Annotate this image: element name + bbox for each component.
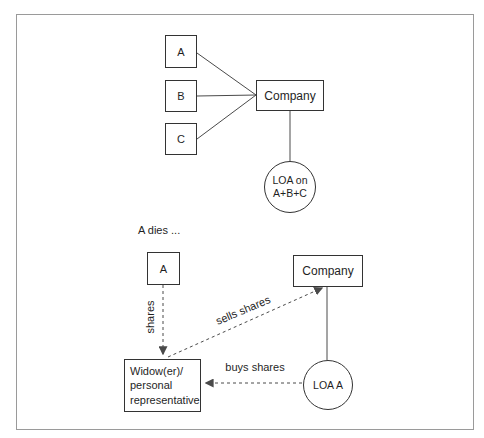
widow-box-line1: Widow(er)/ bbox=[130, 364, 200, 378]
box-shareholder-a-top-label: A bbox=[177, 46, 184, 58]
label-shares: shares bbox=[144, 287, 156, 347]
caption-a-dies: A dies ... bbox=[138, 224, 180, 236]
circle-loa-a: LOA A bbox=[303, 360, 353, 410]
box-company-bottom: Company bbox=[293, 255, 363, 287]
line-c-to-company bbox=[197, 95, 256, 139]
widow-box-line3: representative bbox=[130, 393, 200, 407]
circle-loa-abc: LOA on A+B+C bbox=[264, 161, 316, 213]
widow-box-line2: personal bbox=[130, 378, 200, 392]
box-shareholder-c-label: C bbox=[177, 133, 185, 145]
diagram-canvas: A B C Company LOA on A+B+C A dies ... A … bbox=[0, 0, 484, 438]
box-shareholder-a-top: A bbox=[165, 35, 197, 68]
box-company-bottom-label: Company bbox=[302, 264, 353, 278]
box-shareholder-b-label: B bbox=[177, 90, 184, 102]
box-company-top-label: Company bbox=[264, 89, 315, 103]
line-b-to-company bbox=[197, 95, 256, 96]
box-shareholder-a-bottom: A bbox=[147, 252, 180, 285]
circle-loa-abc-line1: LOA on bbox=[272, 174, 307, 187]
circle-loa-a-label: LOA A bbox=[313, 379, 343, 392]
label-buys-shares: buys shares bbox=[215, 361, 295, 373]
arrow-sells-shares-widow-to-company bbox=[168, 288, 322, 357]
box-shareholder-b: B bbox=[165, 80, 197, 112]
box-shareholder-a-bottom-label: A bbox=[160, 263, 167, 275]
box-shareholder-c: C bbox=[165, 123, 197, 155]
box-widow-personal-representative: Widow(er)/ personal representative bbox=[124, 359, 201, 412]
line-a-to-company bbox=[197, 53, 256, 95]
circle-loa-abc-line2: A+B+C bbox=[273, 187, 307, 200]
box-company-top: Company bbox=[256, 80, 324, 111]
diagram-frame: A B C Company LOA on A+B+C A dies ... A … bbox=[16, 14, 474, 430]
